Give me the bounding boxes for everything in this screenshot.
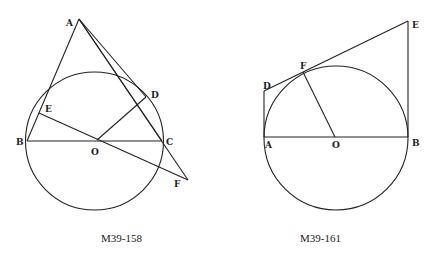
figure-m39-161: D F E A O B M39-161: [263, 20, 420, 244]
label-f: F: [300, 61, 307, 71]
label-d: D: [151, 90, 159, 100]
circle-o: [264, 66, 408, 210]
label-a: A: [65, 18, 74, 28]
label-e: E: [45, 104, 52, 114]
figure-m39-158: A B C D E F O M39-158: [16, 18, 188, 244]
segment-ab: [27, 19, 79, 141]
label-a: A: [264, 140, 273, 150]
caption-m39-161: M39-161: [300, 232, 341, 244]
label-o: O: [91, 147, 99, 157]
segment-od: [97, 97, 146, 140]
segment-ad: [79, 19, 146, 97]
segment-fo: [303, 72, 335, 137]
label-f: F: [174, 179, 181, 189]
label-e: E: [412, 20, 419, 30]
diagram-canvas: A B C D E F O M39-158 D F E A O B M39-16…: [0, 0, 431, 255]
segment-ac: [79, 19, 162, 141]
label-c: C: [166, 137, 173, 147]
label-b: B: [412, 138, 420, 148]
caption-m39-158: M39-158: [101, 232, 142, 244]
label-o: O: [332, 140, 340, 150]
tangent-de: [264, 21, 408, 91]
label-b: B: [16, 137, 24, 147]
label-d: D: [263, 81, 271, 91]
